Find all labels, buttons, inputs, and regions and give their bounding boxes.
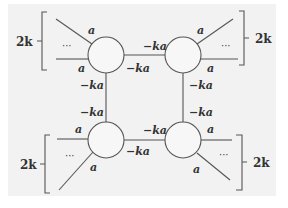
tr-lower-label: a [207,62,214,75]
tl-upper-label: a [88,24,95,37]
bl-up-label: −ka [80,106,104,119]
br-left-label: −ka [143,124,167,137]
br-up-label: −ka [189,106,213,119]
tl-down-label: −ka [80,79,104,92]
tl-dots: ··· [62,40,72,51]
tensor-network-diagram: 2k 2k 2k 2k a ··· a −ka −ka −ka a ··· a … [0,0,288,208]
br-dots: ··· [219,149,229,160]
tr-down-label: −ka [189,79,213,92]
node-top-left [88,37,124,73]
tl-right-label: −ka [126,62,150,75]
br-lower-label: a [193,163,200,176]
dim-label-bottom-left: 2k [20,158,37,172]
tr-upper-label: a [197,24,204,37]
bl-lower-label: a [90,161,97,174]
dim-label-top-right: 2k [255,32,272,46]
diagram-background [8,4,276,196]
node-bottom-left [88,122,124,158]
bl-right-label: −ka [126,145,150,158]
tr-left-label: −ka [143,40,167,53]
dim-label-top-left: 2k [16,35,33,49]
node-top-right [165,37,201,73]
dim-label-bottom-right: 2k [253,156,270,170]
node-bottom-right [165,122,201,158]
br-upper-label: a [207,123,214,136]
bl-dots: ··· [65,150,75,161]
tl-lower-label: a [78,62,85,75]
bl-upper-label: a [75,123,82,136]
tr-dots: ··· [221,40,231,51]
